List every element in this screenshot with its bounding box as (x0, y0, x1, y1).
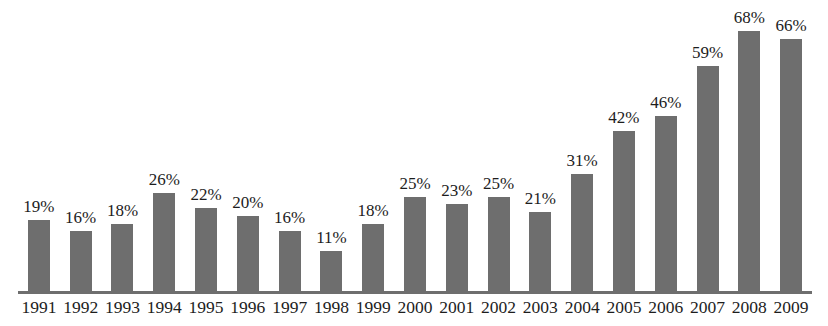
bar (237, 216, 259, 293)
x-tick: 1992 (60, 297, 102, 318)
bar-value-label: 26% (149, 170, 180, 190)
plot-area: 19%16%18%26%22%20%16%11%18%25%23%25%21%3… (18, 0, 812, 293)
bar (780, 39, 802, 293)
bar-group: 31% (561, 0, 603, 293)
x-tick: 1998 (311, 297, 353, 318)
bar-group: 19% (18, 0, 60, 293)
x-tick-label: 1992 (63, 297, 98, 317)
bar-group: 25% (394, 0, 436, 293)
x-tick-label: 2003 (523, 297, 558, 317)
x-tick-label: 1998 (314, 297, 349, 317)
x-tick: 2000 (394, 297, 436, 318)
x-tick-label: 1991 (21, 297, 56, 317)
bar (488, 197, 510, 293)
x-tick: 2005 (603, 297, 645, 318)
bar-value-label: 11% (316, 228, 347, 248)
bar-value-label: 31% (567, 151, 598, 171)
x-tick: 1994 (143, 297, 185, 318)
x-tick: 1997 (269, 297, 311, 318)
bar-group: 25% (478, 0, 520, 293)
x-tick-label: 2006 (648, 297, 683, 317)
x-tick: 2006 (645, 297, 687, 318)
bar-value-label: 16% (65, 208, 96, 228)
bar (529, 212, 551, 293)
bar (320, 251, 342, 293)
bar-group: 59% (687, 0, 729, 293)
bar-group: 22% (185, 0, 227, 293)
x-tick-label: 2000 (397, 297, 432, 317)
bar-value-label: 25% (399, 174, 430, 194)
bar (153, 193, 175, 293)
bar-value-label: 18% (107, 201, 138, 221)
x-tick-label: 1993 (105, 297, 140, 317)
x-tick-label: 2007 (690, 297, 725, 317)
x-tick-label: 2004 (565, 297, 600, 317)
bar (655, 116, 677, 293)
x-tick-label: 2005 (606, 297, 641, 317)
bar-value-label: 22% (190, 185, 221, 205)
bar-group: 11% (311, 0, 353, 293)
x-tick-label: 1994 (147, 297, 182, 317)
bar (111, 224, 133, 293)
x-tick: 1996 (227, 297, 269, 318)
x-tick: 2007 (687, 297, 729, 318)
bar (362, 224, 384, 293)
bar-group: 21% (519, 0, 561, 293)
x-tick: 1991 (18, 297, 60, 318)
bar-value-label: 23% (441, 181, 472, 201)
x-axis-line (18, 291, 812, 294)
bar-group: 16% (60, 0, 102, 293)
x-tick-label: 1997 (272, 297, 307, 317)
bar (70, 231, 92, 293)
x-tick: 2002 (478, 297, 520, 318)
bar-value-label: 66% (776, 16, 807, 36)
bar-value-label: 18% (358, 201, 389, 221)
x-tick: 2001 (436, 297, 478, 318)
bar (613, 131, 635, 293)
bar-group: 68% (728, 0, 770, 293)
x-tick-label: 2009 (774, 297, 809, 317)
bar-value-label: 21% (525, 189, 556, 209)
x-tick-label: 2008 (732, 297, 767, 317)
x-tick-label: 2002 (481, 297, 516, 317)
x-tick: 1993 (102, 297, 144, 318)
x-tick: 2009 (770, 297, 812, 318)
bar (404, 197, 426, 293)
bar-value-label: 20% (232, 193, 263, 213)
bar (571, 174, 593, 293)
x-tick-label: 2001 (439, 297, 474, 317)
x-tick-label: 1999 (356, 297, 391, 317)
x-tick-label: 1995 (189, 297, 224, 317)
x-tick: 1995 (185, 297, 227, 318)
bar (738, 31, 760, 293)
bar-group: 20% (227, 0, 269, 293)
bar-value-label: 59% (692, 43, 723, 63)
bar-group: 18% (102, 0, 144, 293)
bar-group: 46% (645, 0, 687, 293)
bar-group: 23% (436, 0, 478, 293)
bar (28, 220, 50, 293)
bar (195, 208, 217, 293)
bar-chart: 19%16%18%26%22%20%16%11%18%25%23%25%21%3… (0, 0, 828, 326)
bar-group: 42% (603, 0, 645, 293)
x-tick: 2003 (519, 297, 561, 318)
x-tick: 2008 (728, 297, 770, 318)
bar (446, 204, 468, 293)
bar-value-label: 68% (734, 8, 765, 28)
bar-value-label: 42% (608, 108, 639, 128)
x-tick: 2004 (561, 297, 603, 318)
x-tick: 1999 (352, 297, 394, 318)
bar-group: 66% (770, 0, 812, 293)
bar-value-label: 19% (23, 197, 54, 217)
bar-value-label: 16% (274, 208, 305, 228)
bar-value-label: 25% (483, 174, 514, 194)
bar (697, 66, 719, 293)
bar-group: 26% (143, 0, 185, 293)
bar-group: 18% (352, 0, 394, 293)
bar (279, 231, 301, 293)
bar-group: 16% (269, 0, 311, 293)
x-tick-label: 1996 (230, 297, 265, 317)
bar-value-label: 46% (650, 93, 681, 113)
x-axis-tick-labels: 1991199219931994199519961997199819992000… (18, 297, 812, 323)
